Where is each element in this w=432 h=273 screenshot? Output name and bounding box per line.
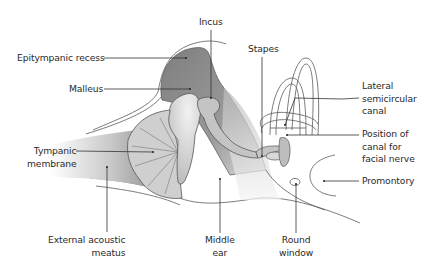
label-line: Round	[279, 234, 313, 247]
label-line: canal	[362, 105, 417, 118]
label-line: Middle	[205, 234, 235, 247]
label-line: Position of	[362, 128, 415, 141]
label-line: semicircular	[362, 93, 417, 106]
label-middle-ear: Middle ear	[205, 234, 235, 259]
label-line: External acoustic	[48, 234, 125, 247]
label-line: membrane	[27, 158, 76, 171]
label-line: Tympanic	[27, 145, 76, 158]
label-line: facial nerve	[362, 153, 415, 166]
label-epitympanic-recess: Epitympanic recess	[17, 52, 105, 65]
label-facial-nerve-canal: Position of canal for facial nerve	[362, 128, 415, 166]
label-incus: Incus	[199, 16, 223, 29]
label-line: meatus	[48, 247, 125, 260]
label-line: window	[279, 247, 313, 260]
semicircular-canals	[260, 58, 318, 135]
label-stapes: Stapes	[248, 43, 279, 56]
label-line: canal for	[362, 141, 415, 154]
label-round-window: Round window	[279, 234, 313, 259]
promontory-shape	[266, 155, 336, 210]
label-lateral-semicircular-canal: Lateral semicircular canal	[362, 80, 417, 118]
label-line: Lateral	[362, 80, 417, 93]
label-external-acoustic-meatus: External acoustic meatus	[48, 234, 125, 259]
label-promontory: Promontory	[362, 175, 414, 188]
label-line: ear	[205, 247, 235, 260]
label-malleus: Malleus	[69, 83, 103, 96]
label-tympanic-membrane: Tympanic membrane	[27, 145, 76, 170]
